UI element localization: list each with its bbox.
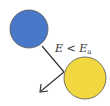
energy-symbol: E [55,42,63,55]
less-than-operator: < [63,42,79,55]
yellow-particle [64,57,106,99]
activation-subscript: a [87,48,91,56]
rebound-arrow [41,72,64,91]
energy-condition-label: E < Ea [55,42,91,56]
blue-particle [10,10,48,48]
